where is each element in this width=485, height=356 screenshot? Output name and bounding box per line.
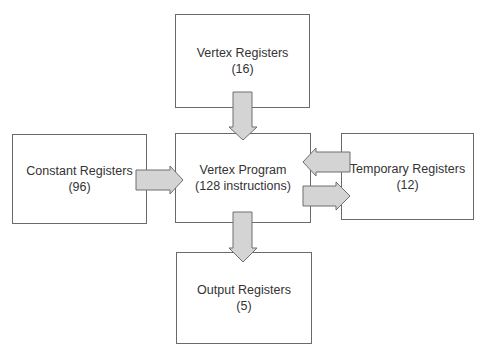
vertex-program-label: Vertex Program <box>200 162 287 178</box>
vertex-program-count: (128 instructions) <box>195 178 291 194</box>
constant-registers-count: (96) <box>68 179 90 195</box>
output-registers-label: Output Registers <box>197 282 291 298</box>
temporary-registers-box: Temporary Registers (12) <box>341 133 474 220</box>
vertex-registers-label: Vertex Registers <box>197 45 289 61</box>
temporary-registers-label: Temporary Registers <box>350 161 465 177</box>
output-registers-box: Output Registers (5) <box>176 252 312 344</box>
vertex-registers-box: Vertex Registers (16) <box>175 14 310 108</box>
vertex-program-box: Vertex Program (128 instructions) <box>175 133 311 223</box>
constant-registers-label: Constant Registers <box>26 163 132 179</box>
temporary-registers-count: (12) <box>396 177 418 193</box>
output-registers-count: (5) <box>236 298 251 314</box>
constant-registers-box: Constant Registers (96) <box>12 134 147 224</box>
vertex-registers-count: (16) <box>231 61 253 77</box>
